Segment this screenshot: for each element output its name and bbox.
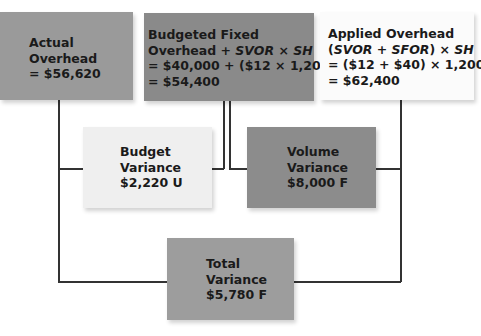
applied-line3: = ($12 + $40) × 1,200 bbox=[328, 57, 474, 73]
budgeted-overhead-box: Budgeted Fixed Overhead + SVOR × SH = $4… bbox=[144, 13, 314, 101]
budgeted-line1: Budgeted Fixed bbox=[148, 27, 314, 43]
actual-line2: Overhead bbox=[29, 51, 133, 67]
total-variance-box: Total Variance $5,780 F bbox=[167, 238, 294, 320]
actual-overhead-box: Actual Overhead = $56,620 bbox=[0, 12, 133, 100]
volume-variance-line1: Volume bbox=[287, 144, 376, 160]
actual-line1: Actual bbox=[29, 35, 133, 51]
budget-variance-box: Budget Variance $2,220 U bbox=[83, 127, 212, 208]
connector-budget-left bbox=[58, 168, 84, 170]
connector-volume-left bbox=[229, 168, 248, 170]
total-variance-line2: Variance bbox=[206, 272, 294, 288]
connector-applied-vertical bbox=[400, 100, 402, 282]
applied-line2: (SVOR + SFOR) × SH bbox=[328, 42, 474, 58]
budgeted-line3: = $40,000 + ($12 × 1,200) bbox=[148, 58, 314, 74]
connector-budgeted-left-vertical bbox=[223, 100, 225, 169]
volume-variance-box: Volume Variance $8,000 F bbox=[247, 127, 376, 208]
budget-variance-line1: Budget bbox=[120, 144, 212, 160]
total-variance-line1: Total bbox=[206, 256, 294, 272]
budget-variance-line3: $2,220 U bbox=[120, 175, 212, 191]
total-variance-line3: $5,780 F bbox=[206, 287, 294, 303]
actual-line3: = $56,620 bbox=[29, 66, 133, 82]
connector-actual-vertical bbox=[58, 100, 60, 282]
volume-variance-line2: Variance bbox=[287, 160, 376, 176]
budget-variance-line2: Variance bbox=[120, 160, 212, 176]
connector-budgeted-right-vertical bbox=[229, 100, 231, 169]
connector-volume-right bbox=[376, 168, 401, 170]
applied-line1: Applied Overhead bbox=[328, 26, 474, 42]
budgeted-line4: = $54,400 bbox=[148, 74, 314, 90]
applied-line4: = $62,400 bbox=[328, 73, 474, 89]
budgeted-line2: Overhead + SVOR × SH bbox=[148, 43, 314, 59]
volume-variance-line3: $8,000 F bbox=[287, 175, 376, 191]
applied-overhead-box: Applied Overhead (SVOR + SFOR) × SH = ($… bbox=[320, 12, 474, 100]
